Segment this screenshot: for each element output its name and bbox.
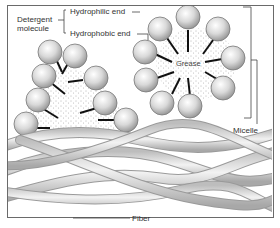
detergent-micelle-illustration (0, 0, 280, 228)
fibers (0, 123, 280, 212)
fiber-label: Fiber (132, 214, 150, 223)
grease-label: Grease (176, 59, 201, 68)
micelle-label: Micelle (233, 126, 258, 135)
detergent-molecule-label: Detergent molecule (17, 15, 52, 33)
hydrophobic-end-label: Hydrophobic end (70, 29, 130, 38)
hydrophilic-end-label: Hydrophilic end (70, 7, 125, 16)
